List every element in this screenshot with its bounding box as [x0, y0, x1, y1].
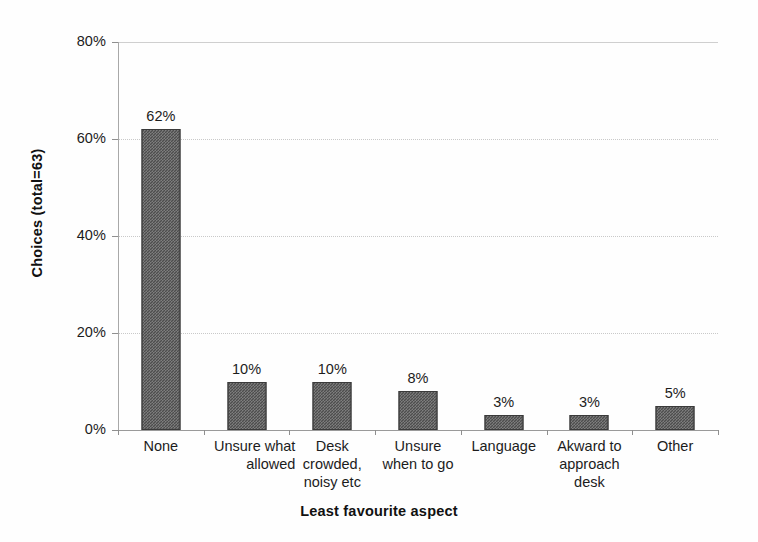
y-axis-tick-label: 80%: [77, 33, 106, 49]
x-axis-category-label: Unsure whatallowed: [198, 437, 296, 473]
x-label-line: when to go: [369, 455, 467, 473]
x-axis-category-label: Other: [626, 437, 724, 455]
x-axis-category-label: Akward toapproachdesk: [541, 437, 639, 491]
x-label-line: approach: [541, 455, 639, 473]
bar: [227, 382, 266, 431]
x-axis-title: Least favourite aspect: [0, 503, 758, 519]
x-label-line: allowed: [198, 455, 296, 473]
x-label-line: None: [112, 437, 210, 455]
x-tick-mark: [461, 430, 462, 435]
y-axis-tick-label: 40%: [77, 227, 106, 243]
y-axis-tick-label: 20%: [77, 324, 106, 340]
y-axis-tick-label: 60%: [77, 130, 106, 146]
bar-group: 10%: [204, 42, 290, 430]
x-axis-category-label: Unsurewhen to go: [369, 437, 467, 473]
bar-group: 5%: [632, 42, 718, 430]
bar: [656, 406, 695, 430]
bar-group: 3%: [461, 42, 547, 430]
x-tick-mark: [547, 430, 548, 435]
bar-value-label: 3%: [579, 394, 600, 410]
bar-chart: Choices (total=63) 0%20%40%60%80% 62%10%…: [0, 0, 758, 542]
bar-group: 3%: [547, 42, 633, 430]
bar-value-label: 3%: [493, 394, 514, 410]
x-label-line: Language: [455, 437, 553, 455]
bar: [398, 391, 437, 430]
bar-value-label: 5%: [665, 385, 686, 401]
x-label-line: Unsure: [369, 437, 467, 455]
bar-value-label: 62%: [146, 108, 175, 124]
x-label-line: noisy etc: [283, 473, 381, 491]
x-label-line: Desk: [283, 437, 381, 455]
bar-group: 10%: [289, 42, 375, 430]
bar: [570, 415, 609, 430]
bar-value-label: 10%: [318, 361, 347, 377]
bars-layer: 62%10%10%8%3%3%5%: [118, 42, 718, 430]
y-axis-tick-label: 0%: [85, 421, 106, 437]
x-axis-category-label: Deskcrowded,noisy etc: [283, 437, 381, 491]
x-label-line: Akward to: [541, 437, 639, 455]
bar: [484, 415, 523, 430]
x-axis-category-labels: NoneUnsure whatallowedDeskcrowded,noisy …: [118, 437, 718, 497]
gridline-0%: [118, 430, 718, 431]
plot-area: 62%10%10%8%3%3%5%: [118, 42, 718, 430]
x-axis-category-label: Language: [455, 437, 553, 455]
bar: [141, 129, 180, 430]
x-tick-mark: [204, 430, 205, 435]
x-tick-mark: [289, 430, 290, 435]
x-tick-mark: [375, 430, 376, 435]
x-label-line: Unsure what: [198, 437, 296, 455]
x-label-line: Other: [626, 437, 724, 455]
x-axis-category-label: None: [112, 437, 210, 455]
bar-group: 62%: [118, 42, 204, 430]
bar-value-label: 8%: [408, 370, 429, 386]
y-axis-title: Choices (total=63): [29, 113, 45, 313]
x-tick-mark: [718, 430, 719, 435]
x-label-line: crowded,: [283, 455, 381, 473]
x-tick-mark: [118, 430, 119, 435]
x-label-line: desk: [541, 473, 639, 491]
bar-value-label: 10%: [232, 361, 261, 377]
x-tick-mark: [632, 430, 633, 435]
bar: [313, 382, 352, 431]
bar-group: 8%: [375, 42, 461, 430]
